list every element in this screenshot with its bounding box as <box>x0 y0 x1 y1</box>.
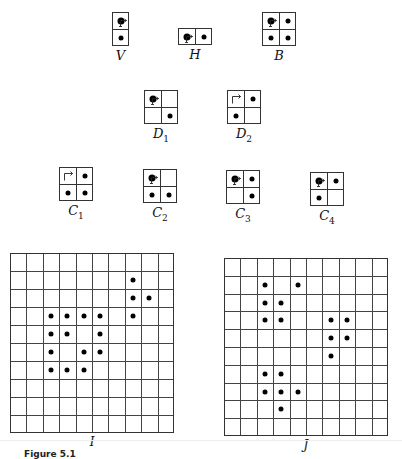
pixel-dot <box>328 353 333 358</box>
grid-line <box>225 365 387 366</box>
pattern-d2 <box>227 90 261 124</box>
dot-marker <box>316 195 321 200</box>
pixel-dot <box>295 389 300 394</box>
dot-marker <box>333 178 338 183</box>
pixel-dot <box>345 336 350 341</box>
image-grid-i <box>10 253 174 433</box>
pattern-label: V <box>116 48 125 63</box>
pixel-dot <box>279 371 284 376</box>
figure-caption: Figure 5.1 <box>24 449 76 459</box>
pattern-h <box>178 28 212 45</box>
pixel-dot <box>98 314 103 319</box>
pattern-label-subscript: 4 <box>329 216 335 226</box>
pixel-dot <box>81 368 86 373</box>
pattern-label: C4 <box>319 208 335 226</box>
neighbor-arrow-icon <box>311 173 328 190</box>
neighbor-arrow-icon <box>263 13 280 30</box>
pattern-v <box>112 12 129 46</box>
pixel-dot <box>65 314 70 319</box>
pattern-label-text: D <box>153 126 163 141</box>
pattern-label: D1 <box>153 126 169 144</box>
pixel-dot <box>98 350 103 355</box>
pattern-label-text: B <box>274 48 284 63</box>
grid-line <box>11 289 173 290</box>
pixel-dot <box>263 389 268 394</box>
pixel-dot <box>49 332 54 337</box>
dot-marker <box>233 113 238 118</box>
dot-marker <box>166 192 171 197</box>
grid-line <box>225 418 387 419</box>
pattern-label-subscript: 1 <box>78 211 84 221</box>
grid-line <box>11 361 173 362</box>
grid-line <box>225 311 387 312</box>
dot-marker <box>167 113 172 118</box>
pixel-dot <box>49 368 54 373</box>
dot-marker <box>285 18 290 23</box>
pixel-dot <box>49 350 54 355</box>
pixel-dot <box>263 282 268 287</box>
pattern-label: C1 <box>68 203 84 221</box>
pattern-label-text: C <box>68 203 78 218</box>
grid-line <box>225 329 387 330</box>
pixel-dot <box>81 350 86 355</box>
neighbor-arrow-icon <box>60 168 77 185</box>
grid-line <box>225 294 387 295</box>
dot-marker <box>82 173 87 178</box>
pixel-dot <box>328 336 333 341</box>
pixel-dot <box>98 332 103 337</box>
dot-marker <box>149 192 154 197</box>
pattern-c4 <box>310 172 344 206</box>
pattern-b <box>262 12 296 46</box>
grid-line <box>225 276 387 277</box>
pixel-dot <box>131 314 136 319</box>
neighbor-arrow-icon <box>179 29 196 46</box>
grid-label: I <box>90 435 95 449</box>
pixel-dot <box>131 296 136 301</box>
pattern-label: H <box>189 47 200 62</box>
grid-line <box>225 383 387 384</box>
dot-marker <box>250 96 255 101</box>
neighbor-arrow-icon <box>144 170 161 187</box>
grid-line <box>11 415 173 416</box>
pixel-dot <box>328 318 333 323</box>
dot-marker <box>82 190 87 195</box>
pixel-dot <box>49 314 54 319</box>
pixel-dot <box>345 318 350 323</box>
pattern-c2 <box>143 169 177 203</box>
pattern-d1 <box>144 90 178 124</box>
pixel-dot <box>279 389 284 394</box>
neighbor-arrow-icon <box>228 91 245 108</box>
dot-marker <box>285 35 290 40</box>
grid-line <box>11 307 173 308</box>
pattern-label: C3 <box>235 206 251 224</box>
pattern-c1 <box>59 167 93 201</box>
page-edge-divider <box>0 440 402 441</box>
pattern-label: C2 <box>152 205 168 223</box>
pixel-dot <box>263 300 268 305</box>
pattern-label-text: H <box>189 47 200 62</box>
pixel-dot <box>295 282 300 287</box>
pattern-label-text: C <box>319 208 329 223</box>
neighbor-arrow-icon <box>113 13 130 30</box>
pixel-dot <box>263 371 268 376</box>
pixel-dot <box>279 300 284 305</box>
dot-marker <box>268 35 273 40</box>
pattern-label-text: C <box>152 205 162 220</box>
pattern-label-subscript: 2 <box>246 134 252 144</box>
pattern-label-subscript: 2 <box>162 213 168 223</box>
grid-line <box>225 347 387 348</box>
pixel-dot <box>279 318 284 323</box>
pattern-label: D2 <box>236 126 252 144</box>
dot-marker <box>118 35 123 40</box>
dot-marker <box>249 193 254 198</box>
pixel-dot <box>65 332 70 337</box>
pixel-dot <box>147 296 152 301</box>
pattern-label-text: D <box>236 126 246 141</box>
pattern-label-subscript: 3 <box>245 214 251 224</box>
neighbor-arrow-icon <box>227 171 244 188</box>
pattern-label-text: V <box>116 48 125 63</box>
grid-line <box>11 379 173 380</box>
grid-line <box>225 400 387 401</box>
neighbor-arrow-icon <box>145 91 162 108</box>
grid-line <box>11 343 173 344</box>
